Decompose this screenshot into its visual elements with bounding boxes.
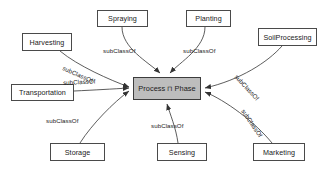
node-soilprocessing[interactable]: SoilProcessing — [258, 28, 317, 46]
node-planting[interactable]: Planting — [186, 10, 231, 27]
edge-storage — [80, 91, 129, 143]
node-sensing-label: Sensing — [169, 148, 195, 157]
node-marketing-label: Marketing — [263, 148, 295, 157]
node-transportation[interactable]: Transportation — [11, 84, 74, 101]
edge-label-spraying: subClassOf — [103, 47, 135, 54]
node-storage-label: Storage — [65, 148, 91, 157]
node-transportation-label: Transportation — [19, 88, 66, 97]
edge-label-sensing: subClassOf — [151, 122, 183, 129]
node-spraying[interactable]: Spraying — [97, 10, 148, 27]
edge-label-storage: subClassOf — [46, 117, 78, 124]
node-storage[interactable]: Storage — [50, 143, 105, 161]
edge-label-planting: subClassOf — [183, 47, 215, 54]
node-harvesting-label: Harvesting — [30, 38, 65, 47]
ontology-diagram: Harvesting Spraying Planting SoilProcess… — [0, 0, 321, 173]
node-soilprocessing-label: SoilProcessing — [263, 33, 311, 42]
node-harvesting[interactable]: Harvesting — [22, 33, 72, 51]
node-planting-label: Planting — [195, 14, 221, 23]
edge-transportation — [74, 88, 129, 91]
node-spraying-label: Spraying — [108, 14, 137, 23]
node-process-phase[interactable]: Process ⊓ Phase — [133, 77, 201, 100]
node-process-phase-label: Process ⊓ Phase — [138, 84, 196, 93]
node-sensing[interactable]: Sensing — [157, 143, 207, 161]
node-marketing[interactable]: Marketing — [253, 143, 305, 161]
